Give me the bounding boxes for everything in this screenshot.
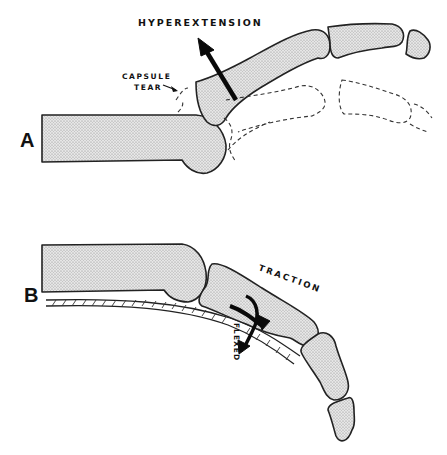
panel-a-letter: A [20, 129, 34, 151]
panel-b: B TRACTIO [24, 244, 355, 441]
metacarpal-bone-b [42, 244, 206, 302]
panel-a: A HYPEREXTENSION CAPSULE TEAR [20, 17, 432, 173]
capsule-tear-pointer-head-icon [171, 86, 178, 92]
normal-position-outline-middle [339, 80, 411, 123]
middle-phalanx-b [301, 333, 348, 400]
diagram-canvas: A HYPEREXTENSION CAPSULE TEAR B [0, 0, 447, 455]
capsule-tear-fragment [176, 88, 188, 112]
anatomical-figure: A HYPEREXTENSION CAPSULE TEAR B [0, 0, 447, 455]
metacarpal-bone-a [42, 115, 226, 173]
joint-capsule-outline [224, 118, 270, 162]
middle-phalanx-a [328, 24, 404, 58]
distal-phalanx-b [328, 398, 355, 441]
hyperextension-label: HYPEREXTENSION [138, 17, 263, 28]
proximal-phalanx-hyperextended [196, 30, 330, 126]
panel-b-letter: B [24, 284, 38, 306]
distal-phalanx-a [406, 30, 430, 59]
normal-position-outline-distal [410, 104, 432, 132]
capsule-label: CAPSULE [122, 72, 171, 81]
traction-label: TRACTION [257, 262, 322, 294]
hyperextension-arrow-icon [198, 38, 214, 56]
tear-label: TEAR [134, 83, 162, 92]
flexed-label: FLEXED [232, 323, 241, 361]
